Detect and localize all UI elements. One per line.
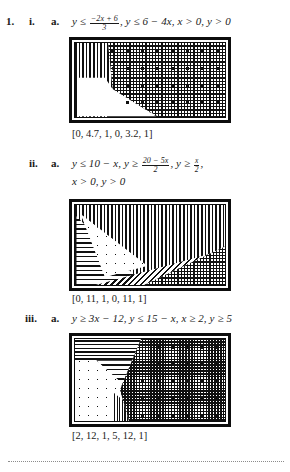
fraction-i: −2x + 63 [90,15,119,32]
roman-label-i: i. [29,15,35,27]
alpha-label-iii: a. [51,312,59,324]
alpha-label-ii: a. [51,157,59,169]
feasible-region-graph-1 [69,37,231,123]
feasible-region-graph-3 [69,333,231,427]
fraction-ii-b-denominator: 2 [194,166,199,174]
fraction-ii-b: x2 [194,157,199,173]
graph-2-window-caption: [0, 11, 1, 0, 11, 1] [72,293,146,304]
fraction-ii-a-denominator: 2 [142,166,170,174]
worksheet-page: 1. i. a. y ≤ −2x + 63, y ≤ 6 − 4x, x > 0… [0,0,290,472]
fraction-i-denominator: 3 [90,24,119,32]
expr-ii-mid: , y ≥ [170,157,193,169]
inequality-expression-iii: y ≥ 3x − 12, y ≤ 15 − x, x ≥ 2, y ≥ 5 [72,312,232,324]
expr-ii-lead: y ≤ 10 − x, y ≥ [72,157,141,169]
inequality-expression-ii: y ≤ 10 − x, y ≥ 20 − 5x2, y ≥ x2, [72,157,203,174]
expr-i-lead: y ≤ [72,15,89,27]
roman-label-iii: iii. [25,312,37,324]
graph-3-window-caption: [2, 12, 1, 5, 12, 1] [72,430,147,441]
problem-number: 1. [6,15,14,27]
alpha-label-i: a. [51,15,59,27]
inequality-expression-ii-line2: x > 0, y > 0 [72,175,125,187]
feasible-region-graph-2 [69,199,231,291]
graph-1-window-caption: [0, 4.7, 1, 0, 3.2, 1] [72,128,153,139]
inequality-expression-i: y ≤ −2x + 63, y ≤ 6 − 4x, x > 0, y > 0 [72,15,231,32]
graph-2-plot-area [74,204,226,286]
bottom-divider [8,461,284,462]
fraction-ii-a: 20 − 5x2 [142,157,170,174]
roman-label-ii: ii. [29,157,38,169]
graph-3-plot-area [74,338,226,422]
expr-i-tail: , y ≤ 6 − 4x, x > 0, y > 0 [120,15,231,27]
graph-1-plot-area [74,42,226,118]
expr-ii-tail: , [200,157,203,169]
